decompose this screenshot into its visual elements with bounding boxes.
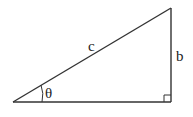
label-b: b	[176, 48, 184, 64]
label-theta: θ	[45, 85, 52, 101]
right-triangle-diagram: c b θ	[0, 0, 193, 117]
angle-arc	[41, 85, 43, 102]
triangle	[13, 8, 171, 102]
label-c: c	[88, 38, 95, 54]
hypotenuse-c	[13, 8, 171, 102]
right-angle-marker	[164, 95, 171, 102]
